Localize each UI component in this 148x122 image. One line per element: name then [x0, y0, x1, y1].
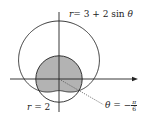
ray-label-rhs: = − [110, 100, 131, 110]
fraction-denominator: 6 [132, 106, 136, 112]
x-axis-arrow-icon [132, 77, 138, 81]
pi-over-6-fraction: π6 [131, 99, 137, 112]
ray-label: θ = −π6 [105, 99, 137, 112]
circle-label: r = 2 [27, 103, 50, 112]
circle-label-rhs: = 2 [31, 102, 50, 112]
limacon-label-rhs: = 3 + 2 sin [73, 9, 127, 19]
polar-diagram: r= 3 + 2 sin θ r = 2 θ = −π6 [0, 0, 148, 122]
limacon-label: r= 3 + 2 sin θ [69, 10, 133, 19]
limacon-label-theta: θ [127, 9, 132, 19]
